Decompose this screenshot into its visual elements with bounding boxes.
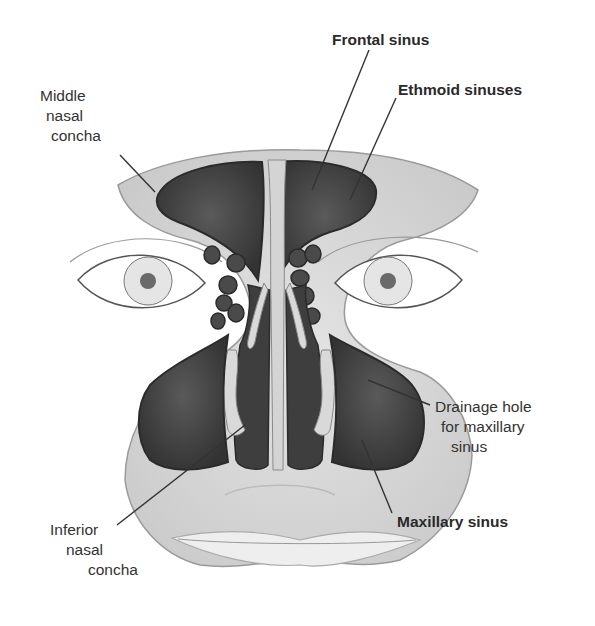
label-drainage-hole: Drainage hole for maxillary sinus bbox=[435, 397, 532, 457]
label-middle-nasal-concha: Middle nasal concha bbox=[40, 86, 101, 146]
label-line: Inferior bbox=[50, 520, 138, 540]
label-ethmoid-sinuses: Ethmoid sinuses bbox=[398, 80, 522, 100]
label-line: nasal bbox=[50, 540, 138, 560]
label-frontal-sinus: Frontal sinus bbox=[332, 30, 429, 50]
sinus-diagram: Frontal sinus Ethmoid sinuses Middle nas… bbox=[0, 0, 595, 626]
label-line: Drainage hole bbox=[435, 397, 532, 417]
label-line: Middle bbox=[40, 86, 101, 106]
label-line: sinus bbox=[435, 437, 532, 457]
label-line: for maxillary bbox=[435, 417, 532, 437]
label-line: concha bbox=[50, 560, 138, 580]
label-line: concha bbox=[40, 126, 101, 146]
label-inferior-nasal-concha: Inferior nasal concha bbox=[50, 520, 138, 580]
label-maxillary-sinus: Maxillary sinus bbox=[397, 512, 508, 532]
label-line: nasal bbox=[40, 106, 101, 126]
left-eye bbox=[70, 239, 222, 308]
